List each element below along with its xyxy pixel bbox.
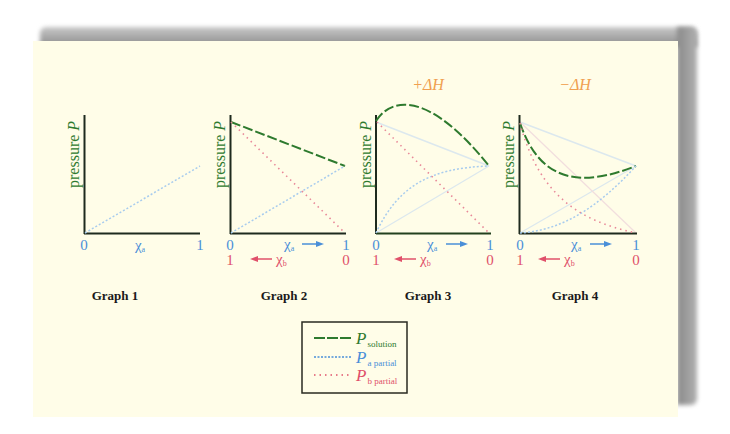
x-axis-label-chi-a: χa [134, 237, 146, 254]
legend: Psolution Pa partial Pb partial [302, 322, 407, 393]
curve-p-solution [376, 105, 489, 166]
graph-title: Graph 4 [552, 288, 599, 303]
x-tick-0: 0 [80, 237, 88, 253]
figure-svg: pressure P 0 1 χa Graph 1 pressure P 0 1… [0, 0, 730, 434]
y-axis-label: pressure P [211, 121, 229, 188]
graph-title: Graph 1 [92, 288, 139, 303]
curve-p-a-partial [231, 166, 345, 233]
y-axis-label: pressure P [500, 121, 518, 188]
graph-heading-delta-h-positive: +ΔH [412, 76, 445, 93]
arrow-left-icon [394, 256, 416, 262]
x-tick-a-0: 0 [516, 237, 524, 253]
graph-title: Graph 2 [261, 288, 308, 303]
reference-line-ideal-a [520, 166, 636, 233]
graph-1: pressure P 0 1 χa Graph 1 [65, 115, 204, 303]
x-tick-a-0: 0 [372, 237, 380, 253]
arrow-right-icon [590, 241, 612, 247]
graph-heading-delta-h-negative: −ΔH [559, 76, 592, 93]
graph-3: +ΔH pressure P 0 1 1 0 χa χb Graph 3 [357, 76, 494, 303]
x-tick-a-1: 1 [486, 237, 494, 253]
arrow-right-icon [302, 241, 324, 247]
x-tick-b-0: 0 [486, 252, 494, 268]
x-tick-b-1: 1 [516, 252, 524, 268]
y-axis-label: pressure P [357, 121, 375, 188]
curve-p-a-partial [85, 166, 200, 233]
curve-p-b-partial [231, 122, 345, 233]
arrow-right-icon [446, 241, 468, 247]
x-tick-b-0: 0 [632, 252, 640, 268]
x-tick-a-1: 1 [632, 237, 640, 253]
y-axis-label: pressure P [65, 121, 83, 188]
x-axis-label-chi-a: χa [570, 236, 582, 253]
x-axis-label-chi-b: χb [563, 251, 575, 268]
x-tick-b-1: 1 [226, 252, 234, 268]
x-tick-1: 1 [196, 237, 204, 253]
x-axis-label-chi-a: χa [283, 236, 295, 253]
graph-title: Graph 3 [405, 288, 452, 303]
x-tick-a-0: 0 [226, 237, 234, 253]
curve-p-solution [520, 123, 636, 178]
graph-2: pressure P 0 1 1 0 χa χb Graph 2 [211, 115, 350, 303]
curve-p-b-partial [377, 122, 489, 233]
arrow-left-icon [538, 256, 560, 262]
x-axis-label-chi-b: χb [275, 251, 287, 268]
x-tick-a-1: 1 [342, 237, 350, 253]
arrow-left-icon [250, 256, 272, 262]
curve-p-solution [231, 122, 345, 166]
reference-line-ideal-solution [520, 122, 636, 166]
x-axis-label-chi-a: χa [426, 236, 438, 253]
x-tick-b-1: 1 [372, 252, 380, 268]
x-axis-label-chi-b: χb [419, 251, 431, 268]
graph-4: −ΔH pressure P 0 1 1 0 χa χb Graph 4 [500, 76, 640, 303]
reference-line-ideal-solution [376, 122, 489, 166]
x-tick-b-0: 0 [342, 252, 350, 268]
